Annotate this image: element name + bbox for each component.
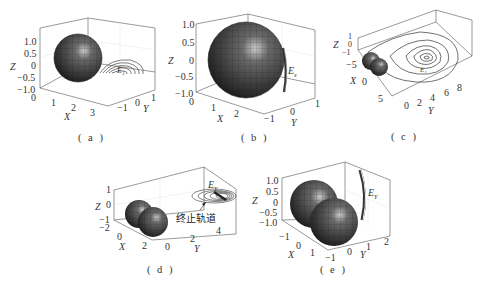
y-axis-label: Y — [194, 244, 200, 254]
equilibrium-label-sub: Y — [374, 194, 377, 200]
y-tick: −1 — [117, 103, 128, 113]
equilibrium-label: EY — [208, 180, 217, 194]
x-tick: 2 — [71, 103, 76, 113]
y-tick: 0 — [165, 242, 170, 252]
x-tick: 5 — [378, 94, 383, 104]
z-tick: 0.5 — [24, 49, 37, 59]
z-axis-label: Z — [10, 62, 16, 72]
y-tick: 1 — [366, 242, 371, 252]
caption-d: ( d ) — [147, 264, 175, 275]
x-tick: 1 — [310, 248, 315, 258]
panel-a-plot — [0, 0, 160, 140]
equilibrium-label: EY — [368, 188, 377, 202]
y-tick: 1 — [151, 93, 156, 103]
y-tick: 0 — [290, 107, 295, 117]
y-tick: 0 — [135, 98, 140, 108]
panel-c: 1 0 −1 Z −5 0 5 X 0 2 4 6 8 Y E₁ ( c ) — [320, 0, 482, 140]
y-tick: 0 — [404, 101, 409, 111]
x-tick: 0 — [296, 241, 301, 251]
x-tick: 3 — [90, 108, 95, 118]
x-tick: −2 — [99, 223, 110, 233]
y-axis-label: Y — [360, 250, 366, 260]
z-axis-label: Z — [95, 202, 101, 212]
equilibrium-label-sub: x — [294, 72, 297, 78]
x-tick: 0 — [31, 93, 36, 103]
z-tick: −1 — [342, 48, 351, 58]
x-axis-label: X — [64, 112, 70, 122]
x-axis-label: X — [350, 76, 356, 86]
z-tick: 0 — [31, 61, 36, 71]
z-tick: 0 — [106, 200, 111, 210]
panel-a: 1.0 0.5 0 −0.5 −1.0 Z 0 1 2 3 X −1 0 1 Y… — [0, 0, 160, 140]
x-axis-label: X — [288, 250, 294, 260]
y-axis-label: Y — [143, 104, 149, 114]
z-tick: 0.5 — [266, 187, 279, 197]
z-tick: −0.5 — [17, 73, 35, 83]
panel-e: 1.0 0.5 0 −0.5 −1.0 Z −1 0 1 X −1 0 1 2 … — [250, 140, 400, 286]
z-axis-label: Z — [333, 40, 339, 50]
z-tick: −1.0 — [259, 218, 277, 228]
panel-b: 1.0 0.5 0 −0.5 −1.0 Z 0 1 2 X −1 0 1 Y E… — [160, 0, 320, 140]
y-tick: 6 — [444, 88, 449, 98]
equilibrium-label: Ex — [288, 66, 297, 80]
z-axis-label: Z — [168, 56, 174, 66]
x-tick: 0 — [189, 97, 194, 107]
x-axis-label: X — [217, 114, 223, 124]
y-axis-label: Y — [291, 118, 297, 128]
y-tick: 4 — [216, 226, 221, 236]
x-tick: 0 — [362, 77, 367, 87]
z-tick: 1 — [106, 185, 111, 195]
y-tick: 0 — [347, 247, 352, 257]
y-axis-label: Y — [428, 106, 434, 116]
x-axis-label: X — [119, 242, 125, 252]
z-tick: 1.0 — [266, 176, 279, 186]
x-tick: 2 — [234, 109, 239, 119]
caption-e: ( e ) — [320, 264, 347, 275]
x-tick: 1 — [51, 98, 56, 108]
y-tick: 2 — [417, 98, 422, 108]
equilibrium-label: E₁ — [420, 65, 427, 75]
x-tick: 1 — [211, 103, 216, 113]
equilibrium-label-sub: Y — [214, 186, 217, 192]
z-tick: −0.5 — [175, 72, 193, 82]
z-tick: 0 — [189, 56, 194, 66]
x-tick: −1 — [279, 232, 290, 242]
y-tick: 8 — [457, 83, 462, 93]
y-tick: 2 — [384, 237, 389, 247]
terminal-orbit-note: 终止轨道 — [176, 210, 216, 225]
z-tick: 1.0 — [182, 20, 195, 30]
y-tick: 4 — [430, 93, 435, 103]
y-tick: −1 — [264, 114, 275, 124]
x-tick: −5 — [346, 60, 357, 70]
y-tick: −1 — [325, 253, 336, 263]
z-tick: 1.0 — [24, 37, 37, 47]
panel-c-plot — [320, 0, 482, 140]
equilibrium-label: E₁ — [117, 66, 125, 76]
z-tick: 0.5 — [182, 38, 195, 48]
x-tick: 2 — [142, 241, 147, 251]
panel-d: 1 0 −1 Z −2 0 2 X 0 2 4 Y EY 终止轨道 ( d ) — [90, 140, 250, 286]
z-axis-label: Z — [252, 196, 258, 206]
